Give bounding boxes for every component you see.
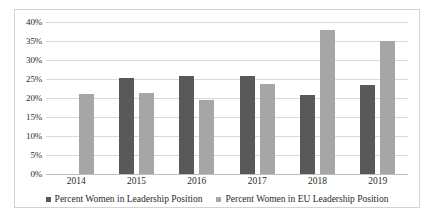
bar-group <box>227 22 287 174</box>
legend-item[interactable]: Percent Women in Leadership Position <box>46 194 203 204</box>
bar <box>119 78 134 174</box>
bar <box>79 94 94 174</box>
gridline-0: 0% <box>46 174 408 175</box>
y-axis-tick-label: 0% <box>30 169 42 179</box>
chart-legend: Percent Women in Leadership PositionPerc… <box>15 194 419 204</box>
bar <box>179 76 194 174</box>
legend-item[interactable]: Percent Women in EU Leadership Position <box>216 194 388 204</box>
bar <box>260 84 275 174</box>
bar <box>199 100 214 174</box>
y-axis-tick-label: 20% <box>26 93 42 103</box>
bar-group <box>287 22 347 174</box>
y-axis-tick-label: 5% <box>30 150 42 160</box>
bar-group <box>348 22 408 174</box>
bar <box>360 85 375 174</box>
x-axis-tick-label: 2019 <box>348 176 408 192</box>
bar <box>240 76 255 174</box>
x-axis-tick-label: 2017 <box>227 176 287 192</box>
legend-swatch-icon <box>46 197 51 202</box>
bar-group <box>167 22 227 174</box>
y-axis-tick-label: 15% <box>26 112 42 122</box>
bar-group <box>106 22 166 174</box>
bar-group <box>46 22 106 174</box>
x-axis-tick-label: 2018 <box>287 176 347 192</box>
y-axis-tick-label: 10% <box>26 131 42 141</box>
plot-area: 40%35%30%25%20%15%10%5%0% <box>46 22 408 174</box>
legend-label: Percent Women in EU Leadership Position <box>225 194 388 204</box>
legend-swatch-icon <box>216 197 221 202</box>
y-axis-tick-label: 30% <box>26 55 42 65</box>
y-axis-tick-label: 40% <box>26 17 42 27</box>
bar <box>139 93 154 174</box>
chart-container: 40%35%30%25%20%15%10%5%0% 20142015201620… <box>14 9 420 208</box>
bar <box>300 95 315 174</box>
y-axis-tick-label: 35% <box>26 36 42 46</box>
x-axis-tick-label: 2016 <box>167 176 227 192</box>
bar-groups <box>46 22 408 174</box>
legend-label: Percent Women in Leadership Position <box>55 194 203 204</box>
x-axis: 201420152016201720182019 <box>46 176 408 192</box>
bar <box>320 30 335 174</box>
x-axis-tick-label: 2015 <box>106 176 166 192</box>
y-axis-tick-label: 25% <box>26 74 42 84</box>
bar <box>380 41 395 174</box>
x-axis-tick-label: 2014 <box>46 176 106 192</box>
